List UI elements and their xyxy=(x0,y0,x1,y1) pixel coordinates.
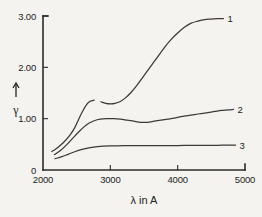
y-tick-labels: 01.002.003.00 xyxy=(18,11,36,176)
curve-line-1 xyxy=(101,19,224,104)
y-axis-title-group: γ xyxy=(12,83,19,117)
curve-line-1 xyxy=(52,100,94,151)
x-tick-label: 2000 xyxy=(33,174,53,185)
x-tick-label: 3000 xyxy=(100,174,120,185)
y-tick-label: 3.00 xyxy=(18,11,36,22)
data-curves xyxy=(52,19,236,159)
x-axis-title: λ in A xyxy=(131,194,159,206)
y-tick-label: 2.00 xyxy=(18,62,36,73)
curve-label-1: 1 xyxy=(227,13,232,24)
curve-label-2: 2 xyxy=(238,104,243,115)
curve-line-2 xyxy=(54,109,233,154)
curve-line-3 xyxy=(55,145,235,159)
x-tick-label: 5000 xyxy=(235,174,255,185)
chart-figure: 01.002.003.00 2000300040005000 123 γ λ i… xyxy=(0,0,262,217)
x-tick-label: 4000 xyxy=(167,174,187,185)
y-tick-label: 1.00 xyxy=(18,113,36,124)
x-tick-labels: 2000300040005000 xyxy=(33,174,255,185)
line-chart-svg: 01.002.003.00 2000300040005000 123 γ λ i… xyxy=(0,0,262,217)
curve-label-3: 3 xyxy=(240,140,245,151)
curve-end-labels: 123 xyxy=(227,13,244,151)
y-axis-title: γ xyxy=(12,103,19,117)
tick-marks xyxy=(43,16,178,170)
axis-frame xyxy=(43,16,245,170)
